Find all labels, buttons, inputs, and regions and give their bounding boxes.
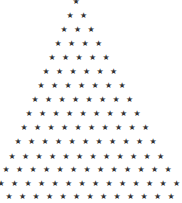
star-icon: ★ [38, 180, 46, 188]
star-icon: ★ [85, 96, 93, 104]
star-icon: ★ [115, 124, 123, 132]
star-icon: ★ [19, 193, 27, 201]
star-icon: ★ [56, 166, 64, 174]
star-icon: ★ [65, 180, 73, 188]
star-icon: ★ [80, 12, 88, 20]
star-icon: ★ [24, 180, 32, 188]
star-icon: ★ [95, 40, 103, 48]
star-icon: ★ [140, 193, 148, 201]
star-icon: ★ [51, 82, 59, 90]
star-icon: ★ [103, 153, 111, 161]
star-icon: ★ [75, 54, 83, 62]
star-icon: ★ [97, 166, 105, 174]
star-icon: ★ [73, 193, 81, 201]
star-icon: ★ [113, 193, 121, 201]
star-icon: ★ [74, 26, 82, 34]
star-icon: ★ [128, 124, 136, 132]
star-icon: ★ [68, 138, 76, 146]
star-icon: ★ [126, 96, 134, 104]
star-icon: ★ [95, 138, 103, 146]
star-icon: ★ [45, 96, 53, 104]
star-icon: ★ [119, 180, 127, 188]
star-icon: ★ [164, 166, 172, 174]
star-icon: ★ [8, 153, 16, 161]
star-icon: ★ [116, 153, 124, 161]
star-icon: ★ [136, 138, 144, 146]
star-icon: ★ [22, 153, 30, 161]
star-icon: ★ [105, 180, 113, 188]
star-icon: ★ [11, 180, 19, 188]
star-icon: ★ [59, 193, 67, 201]
star-icon: ★ [31, 96, 39, 104]
star-icon: ★ [86, 193, 94, 201]
star-icon: ★ [130, 153, 138, 161]
star-icon: ★ [93, 110, 101, 118]
star-icon: ★ [120, 110, 128, 118]
star-icon: ★ [69, 68, 77, 76]
star-icon: ★ [143, 153, 151, 161]
star-icon: ★ [52, 110, 60, 118]
star-icon: ★ [88, 124, 96, 132]
star-icon: ★ [62, 153, 70, 161]
star-icon: ★ [76, 153, 84, 161]
star-icon: ★ [110, 68, 118, 76]
star-icon: ★ [54, 40, 62, 48]
star-icon: ★ [35, 153, 43, 161]
star-icon: ★ [78, 82, 86, 90]
star-icon: ★ [62, 54, 70, 62]
star-icon: ★ [105, 82, 113, 90]
star-icon: ★ [2, 166, 10, 174]
star-icon: ★ [109, 138, 117, 146]
star-icon: ★ [74, 124, 82, 132]
star-icon: ★ [92, 180, 100, 188]
star-icon: ★ [124, 166, 132, 174]
star-icon: ★ [91, 82, 99, 90]
star-icon: ★ [16, 166, 24, 174]
star-icon: ★ [55, 138, 63, 146]
star-icon: ★ [83, 166, 91, 174]
star-icon: ★ [37, 82, 45, 90]
star-icon: ★ [79, 110, 87, 118]
star-icon: ★ [34, 124, 42, 132]
star-icon: ★ [60, 26, 68, 34]
star-icon: ★ [42, 68, 50, 76]
star-icon: ★ [0, 180, 5, 188]
star-icon: ★ [48, 54, 56, 62]
star-icon: ★ [157, 153, 165, 161]
star-icon: ★ [89, 153, 97, 161]
star-row: ★★★★★★★★★★★★★ [0, 0, 182, 10]
star-icon: ★ [51, 180, 59, 188]
star-icon: ★ [47, 124, 55, 132]
star-icon: ★ [173, 180, 181, 188]
star-icon: ★ [56, 68, 64, 76]
star-icon: ★ [78, 180, 86, 188]
star-icon: ★ [159, 180, 167, 188]
star-icon: ★ [132, 180, 140, 188]
star-icon: ★ [58, 96, 66, 104]
star-icon: ★ [49, 153, 57, 161]
star-icon: ★ [102, 54, 110, 62]
star-icon: ★ [29, 166, 37, 174]
star-icon: ★ [167, 193, 175, 201]
star-pyramid: ★★★★★★★★★★★★★★★★★★★★★★★★★★★★★★★★★★★★★★★★… [0, 0, 182, 203]
star-icon: ★ [66, 12, 74, 20]
star-icon: ★ [142, 124, 150, 132]
star-icon: ★ [28, 138, 36, 146]
star-icon: ★ [122, 138, 130, 146]
star-icon: ★ [133, 110, 141, 118]
star-icon: ★ [66, 110, 74, 118]
star-icon: ★ [151, 166, 159, 174]
star-icon: ★ [39, 110, 47, 118]
star-icon: ★ [64, 82, 72, 90]
star-icon: ★ [106, 110, 114, 118]
star-icon: ★ [83, 68, 91, 76]
star-icon: ★ [70, 166, 78, 174]
star-icon: ★ [61, 124, 69, 132]
star-icon: ★ [110, 166, 118, 174]
star-icon: ★ [43, 166, 51, 174]
star-icon: ★ [96, 68, 104, 76]
star-icon: ★ [99, 96, 107, 104]
star-icon: ★ [46, 193, 54, 201]
star-icon: ★ [118, 82, 126, 90]
star-icon: ★ [82, 138, 90, 146]
